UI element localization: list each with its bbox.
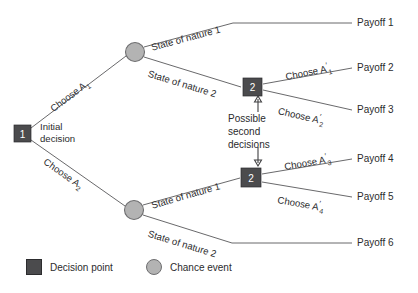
decision-point-swatch-icon	[26, 259, 42, 275]
legend-decision-point-label: Decision point	[50, 262, 113, 273]
edge-root-to-lower-chance	[31, 140, 125, 206]
payoff-label-3: Payoff 3	[357, 104, 394, 117]
annotation-line1: Possible	[228, 113, 266, 124]
legend-chance-event: Chance event	[146, 259, 232, 275]
payoff-label-2: Payoff 2	[357, 62, 394, 75]
payoff-label-4: Payoff 4	[357, 153, 394, 166]
legend-decision-point: Decision point	[26, 259, 113, 275]
branch-label-choose-a3-prime-text: Choose A	[283, 154, 326, 172]
payoff-label-6: Payoff 6	[357, 237, 394, 250]
node-lower-chance[interactable]	[125, 201, 144, 220]
node-root-decision-number: 1	[20, 129, 26, 140]
decision-tree-diagram: 1 2 2 Initial decision Choose A1 Choose …	[0, 0, 418, 293]
possible-second-decisions-annotation: Possible second decisions	[228, 113, 270, 151]
edge-upper2-to-payoff3	[263, 90, 352, 110]
node-upper-second-decision-number: 2	[250, 82, 256, 93]
payoff-label-1: Payoff 1	[357, 17, 394, 30]
chance-event-swatch-icon	[146, 259, 162, 275]
node-lower-second-decision-number: 2	[248, 173, 254, 184]
edge-lower2-to-payoff5	[262, 182, 352, 197]
root-decision-label-line1: Initial	[40, 121, 62, 132]
root-decision-label-line2: decision	[40, 133, 75, 144]
root-decision-label: Initial decision	[40, 121, 75, 145]
annotation-line3: decisions	[228, 139, 270, 150]
payoff-label-5: Payoff 5	[357, 191, 394, 204]
legend-chance-event-label: Chance event	[170, 262, 232, 273]
annotation-line2: second	[228, 126, 260, 137]
node-upper-chance[interactable]	[126, 43, 145, 62]
